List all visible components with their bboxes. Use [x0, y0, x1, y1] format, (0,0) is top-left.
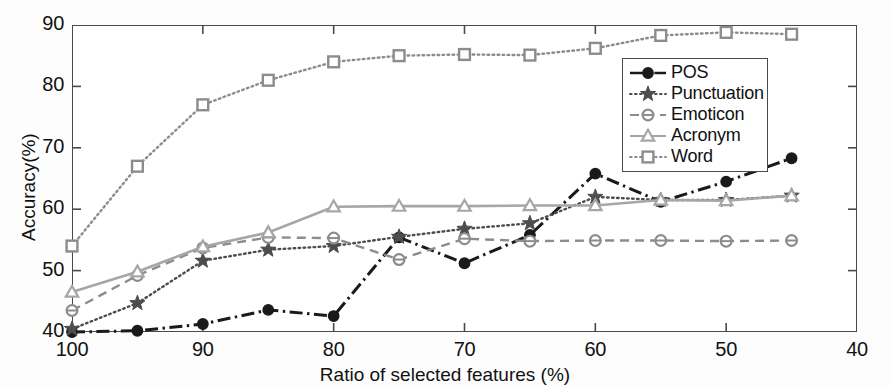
x-tick-40: 40 — [827, 338, 887, 361]
legend-label: Emoticon — [668, 104, 744, 125]
y-tick-80: 80 — [18, 73, 64, 96]
x-tick-80: 80 — [304, 338, 364, 361]
x-tick-60: 60 — [565, 338, 625, 361]
legend-label: Word — [668, 146, 713, 167]
legend-item-word[interactable]: Word — [628, 146, 762, 167]
x-tick-90: 90 — [173, 338, 233, 361]
legend-label: Punctuation — [668, 83, 764, 104]
y-tick-90: 90 — [18, 12, 64, 35]
y-axis-title: Accuracy(%) — [18, 133, 40, 241]
legend-item-acronym[interactable]: Acronym — [628, 125, 762, 146]
legend-label: Acronym — [668, 125, 741, 146]
y-tick-50: 50 — [18, 258, 64, 281]
x-axis-title: Ratio of selected features (%) — [0, 364, 890, 386]
chart-legend: POSPunctuationEmoticonAcronymWord — [622, 58, 768, 172]
x-tick-70: 70 — [435, 338, 495, 361]
legend-item-emoticon[interactable]: Emoticon — [628, 104, 762, 125]
legend-item-pos[interactable]: POS — [628, 62, 762, 83]
chart-figure: 908070605040 100908070605040 Accuracy(%)… — [0, 0, 890, 386]
legend-marker-emoticon-icon — [628, 105, 668, 125]
legend-marker-pos-icon — [628, 63, 668, 83]
legend-item-punctuation[interactable]: Punctuation — [628, 83, 762, 104]
legend-marker-word-icon — [628, 147, 668, 167]
x-tick-50: 50 — [696, 338, 756, 361]
legend-marker-acronym-icon — [628, 126, 668, 146]
legend-marker-punctuation-icon — [628, 84, 668, 104]
x-tick-100: 100 — [42, 338, 102, 361]
legend-label: POS — [668, 62, 708, 83]
